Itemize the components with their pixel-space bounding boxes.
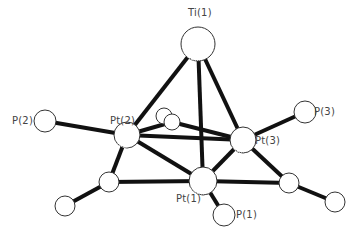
atom-cl [99, 172, 119, 192]
atom-cll [55, 196, 75, 216]
atom-p3 [294, 101, 316, 123]
bond-Ti1-Pt1 [198, 44, 203, 181]
atom-cb2 [164, 114, 180, 130]
atom-label: Pt(2) [110, 116, 135, 126]
atom-ti1 [181, 27, 215, 61]
atom-pt1 [189, 167, 217, 195]
atom-label: Pt(3) [255, 136, 280, 146]
atom-p1 [213, 204, 235, 226]
atom-crr [325, 192, 345, 212]
atom-label: P(3) [314, 107, 335, 117]
atom-label: P(1) [236, 210, 257, 220]
atom-pt3 [230, 127, 256, 153]
atom-label: Pt(1) [176, 194, 201, 204]
atom-label: Ti(1) [188, 8, 212, 18]
atom-cr [279, 173, 299, 193]
atom-label: P(2) [12, 116, 33, 126]
atom-p2 [34, 110, 56, 132]
